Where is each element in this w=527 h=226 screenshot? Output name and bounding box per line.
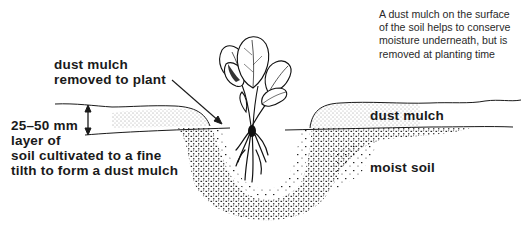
caption-line: removed at planting time (379, 48, 510, 61)
label-moist-soil: moist soil (370, 160, 435, 175)
label-line: soil cultivated to a fine (11, 148, 178, 163)
label-line: tilth to form a dust mulch (11, 163, 178, 178)
caption-line: A dust mulch on the surface (379, 8, 510, 21)
label-line: removed to plant (54, 72, 166, 87)
label-layer-description: 25–50 mm layer of soil cultivated to a f… (11, 118, 178, 178)
caption-line: of the soil helps to conserve (379, 21, 510, 34)
label-line: 25–50 mm (11, 118, 178, 133)
caption-text: A dust mulch on the surface of the soil … (379, 8, 510, 61)
label-dust-mulch-removed: dust mulch removed to plant (54, 57, 166, 87)
seedling-leaves (220, 37, 291, 126)
label-line: layer of (11, 133, 178, 148)
label-dust-mulch: dust mulch (370, 108, 444, 123)
seedling-roots (236, 130, 268, 182)
caption-line: moisture underneath, but is (379, 34, 510, 47)
label-line: dust mulch (54, 57, 166, 72)
root-collar (248, 125, 256, 137)
